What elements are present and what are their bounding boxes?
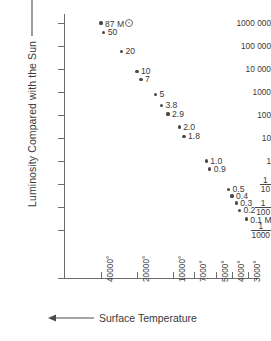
x-axis-label-text: Surface Temperature <box>99 312 197 324</box>
data-point <box>178 125 181 128</box>
data-point <box>135 70 138 73</box>
x-tick-label: 7000° <box>198 260 208 282</box>
y-tick-label: 1 1000 <box>219 222 271 240</box>
data-point-label: 20 <box>125 47 135 56</box>
data-point-label: 5 <box>160 90 165 99</box>
data-point-label: 0.1 M <box>250 215 271 224</box>
sun-symbol-icon <box>125 19 134 28</box>
data-point <box>102 31 105 34</box>
x-tick-label: 5000° <box>220 260 230 282</box>
x-tick <box>101 272 102 279</box>
x-tick <box>194 272 195 279</box>
y-tick <box>58 184 65 185</box>
data-point-label: 1.8 <box>188 132 200 141</box>
x-tick-label: 10000° <box>177 256 187 282</box>
data-point-label: 7 <box>145 75 150 84</box>
y-tick <box>58 161 65 162</box>
y-axis-line <box>64 14 65 279</box>
y-tick-label: 100 <box>219 111 271 119</box>
data-point <box>182 135 185 138</box>
x-tick <box>248 272 249 279</box>
y-tick <box>58 69 65 70</box>
data-point <box>166 112 169 115</box>
left-arrow-icon <box>48 313 94 323</box>
x-tick <box>216 272 217 279</box>
up-arrow-icon <box>27 0 37 36</box>
data-point <box>227 188 230 191</box>
fraction-one-tenth: 1 10 <box>260 176 271 194</box>
data-point <box>120 50 123 53</box>
fraction-denominator: 1000 <box>251 230 271 239</box>
y-tick <box>58 46 65 47</box>
y-tick-label: 100 000 <box>219 42 271 50</box>
x-tick <box>137 272 138 279</box>
data-point <box>139 78 142 81</box>
data-point <box>245 217 248 220</box>
y-axis-label-text: Luminosity Compared with the Sun <box>26 41 38 207</box>
x-tick <box>232 272 233 279</box>
y-tick-label: 10 <box>219 134 271 142</box>
y-tick <box>58 92 65 93</box>
y-tick-label: 1000 000 <box>219 19 271 27</box>
fraction-denominator: 10 <box>260 184 271 193</box>
y-axis-label: Luminosity Compared with the Sun <box>23 0 41 207</box>
y-tick <box>58 115 65 116</box>
x-tick <box>173 272 174 279</box>
data-point-label: 2.9 <box>172 110 184 119</box>
data-point <box>205 159 208 162</box>
data-point-label: 50 <box>108 28 118 37</box>
y-tick-label: 1 <box>219 157 271 165</box>
fraction-numerator: 1 <box>255 199 271 207</box>
data-point <box>235 201 238 204</box>
data-point <box>99 21 102 24</box>
y-tick <box>58 138 65 139</box>
data-point <box>230 194 233 197</box>
fraction-numerator: 1 <box>260 176 271 184</box>
x-tick-label: 4000° <box>236 260 246 282</box>
data-point-label: 2.0 <box>183 123 195 132</box>
x-tick-label: 20000° <box>141 256 151 282</box>
y-tick-label: 1000 <box>219 88 271 96</box>
y-tick <box>58 207 65 208</box>
fraction-one-thousandth: 1 1000 <box>251 222 271 240</box>
y-tick-label: 10 000 <box>219 65 271 73</box>
data-point <box>160 104 163 107</box>
hr-diagram-chart: Luminosity Compared with the Sun 1000 00… <box>0 0 271 341</box>
data-point <box>154 93 157 96</box>
x-tick-label: 40000° <box>105 256 115 282</box>
x-tick-label: 3000° <box>252 260 262 282</box>
data-point-label: 0.9 <box>214 165 226 174</box>
y-tick <box>58 23 65 24</box>
x-axis-label: Surface Temperature <box>48 312 197 324</box>
y-tick <box>58 230 65 231</box>
data-point <box>208 167 211 170</box>
